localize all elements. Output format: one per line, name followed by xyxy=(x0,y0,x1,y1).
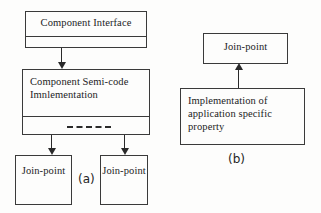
box-joinpoint-b-label: Join-point xyxy=(204,34,287,54)
box-component-interface-label: Component Interface xyxy=(26,12,146,30)
arrowhead-up-icon xyxy=(235,63,243,70)
connector-implementation-to-joinpoint xyxy=(238,70,239,89)
connector-semicode-to-joinpoint-left xyxy=(51,135,52,149)
box-component-interface: Component Interface xyxy=(25,11,147,48)
box-joinpoint-right-label: Join-point xyxy=(101,156,147,178)
compartment-divider xyxy=(23,116,149,117)
diagram-canvas: Component Interface Component Semi-code … xyxy=(0,0,321,213)
figure-caption-a: (a) xyxy=(78,172,95,186)
box-component-semicode: Component Semi-code Imnlementation xyxy=(22,69,150,135)
figure-caption-b: (b) xyxy=(228,152,245,166)
arrowhead-down-icon xyxy=(48,148,56,155)
box-joinpoint-right: Join-point xyxy=(100,155,148,205)
box-joinpoint-b: Join-point xyxy=(203,33,288,64)
box-component-semicode-label: Component Semi-code Imnlementation xyxy=(23,70,149,102)
arrowhead-down-icon xyxy=(58,62,66,69)
connector-interface-to-semicode xyxy=(61,48,62,63)
box-joinpoint-left-label: Join-point xyxy=(16,156,71,178)
dashed-marker xyxy=(67,126,111,128)
box-implementation-label: Implementation of application specific p… xyxy=(181,89,304,133)
box-joinpoint-left: Join-point xyxy=(15,155,72,205)
connector-semicode-to-joinpoint-right xyxy=(124,135,125,149)
arrowhead-down-icon xyxy=(121,148,129,155)
box-implementation: Implementation of application specific p… xyxy=(180,88,305,145)
compartment-divider xyxy=(26,36,146,37)
